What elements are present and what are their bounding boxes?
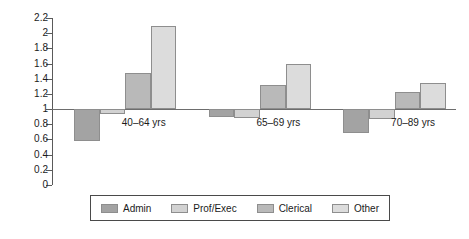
y-tick-label: 0.2 [34, 165, 48, 175]
y-tick-label: 1.8 [34, 43, 48, 53]
legend-swatch-icon [257, 204, 274, 213]
bar [209, 109, 235, 117]
group-label: 70–89 yrs [362, 117, 464, 128]
legend-item[interactable]: Admin [101, 203, 151, 214]
y-tick-label: 1.2 [34, 89, 48, 99]
legend-swatch-icon [171, 204, 188, 213]
bar [395, 92, 421, 109]
legend-label: Admin [123, 203, 151, 214]
bars-layer [52, 18, 456, 185]
bar [260, 85, 286, 109]
y-tick-label: 0.8 [34, 119, 48, 129]
bar [100, 109, 126, 114]
y-tick-label: 1.6 [34, 59, 48, 69]
group-label: 65–69 yrs [227, 117, 329, 128]
bar [286, 64, 312, 109]
legend-swatch-icon [101, 204, 118, 213]
y-tick-label: 2.2 [34, 13, 48, 23]
y-tick-label: 0.6 [34, 134, 48, 144]
y-tick-label: 1.4 [34, 74, 48, 84]
y-tick-label: 0 [42, 180, 48, 190]
legend-swatch-icon [332, 204, 349, 213]
bar [125, 73, 151, 109]
legend-label: Prof/Exec [193, 203, 236, 214]
legend-item[interactable]: Prof/Exec [171, 203, 236, 214]
legend-item[interactable]: Other [332, 203, 379, 214]
bar [420, 83, 446, 110]
y-tick-label: 0.4 [34, 150, 48, 160]
group-label: 40–64 yrs [93, 117, 195, 128]
legend-label: Other [354, 203, 379, 214]
legend-item[interactable]: Clerical [257, 203, 312, 214]
legend-label: Clerical [279, 203, 312, 214]
y-tick-label: 1 [42, 104, 48, 114]
chart-legend: AdminProf/ExecClericalOther [90, 195, 390, 221]
plot-area: 2.221.81.61.41.210.80.60.40.20 40–64 yrs… [52, 18, 456, 185]
y-tick-label: 2 [42, 28, 48, 38]
bar-chart: 2.221.81.61.41.210.80.60.40.20 40–64 yrs… [0, 0, 469, 239]
bar [151, 26, 177, 110]
